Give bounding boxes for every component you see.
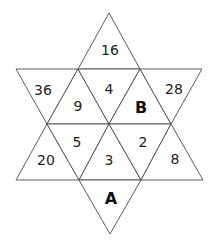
cell-upper-center-inner: 4 xyxy=(105,81,114,97)
cell-lower-center-inner: 3 xyxy=(105,152,114,168)
cell-lower-right-inner: 2 xyxy=(139,134,148,150)
cell-upper-left-point: 36 xyxy=(34,82,52,98)
cell-upper-left-inner: 9 xyxy=(74,98,83,114)
cell-bottom: A xyxy=(105,189,118,208)
triangle-top xyxy=(78,13,140,69)
cell-lower-right-point: 8 xyxy=(171,151,180,167)
cell-upper-right-inner: B xyxy=(135,98,147,117)
cell-upper-right-point: 28 xyxy=(165,81,183,97)
cell-lower-left-inner: 5 xyxy=(73,134,82,150)
cell-top: 16 xyxy=(101,42,119,58)
star-diagram: 16 36 9 4 B 28 20 5 3 2 8 A xyxy=(0,0,213,247)
cell-lower-left-point: 20 xyxy=(37,152,55,168)
